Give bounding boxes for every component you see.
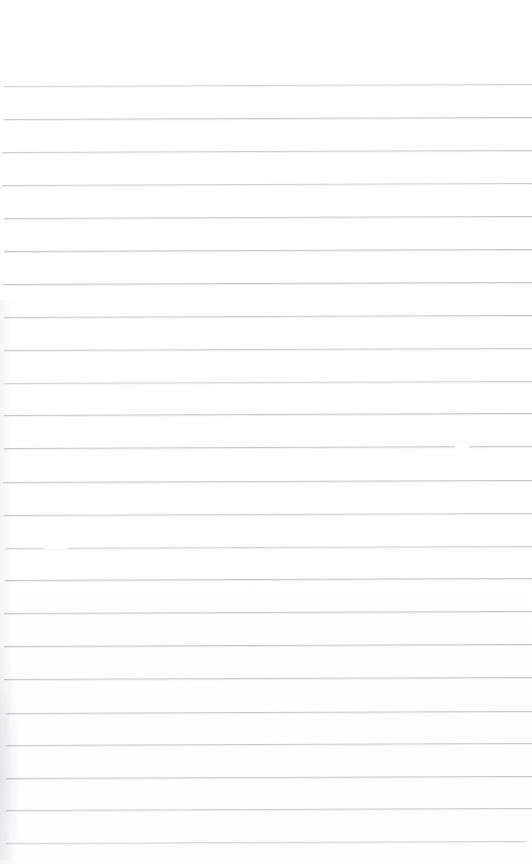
ruled-line: [4, 446, 532, 449]
ruled-line: [3, 480, 532, 483]
ruled-line: [6, 743, 532, 746]
ruled-line: [6, 711, 532, 714]
ruled-lines-layer: [0, 0, 532, 864]
ruled-line: [4, 644, 532, 647]
ruled-line: [4, 513, 532, 516]
ruled-line: [4, 216, 532, 219]
scan-dropout: [0, 546, 6, 549]
ruled-line: [4, 611, 532, 614]
ruled-line: [4, 413, 532, 416]
scanned-page: [0, 0, 532, 864]
ruled-line: [4, 348, 532, 351]
ruled-line: [5, 578, 532, 581]
ruled-line: [6, 808, 532, 811]
ruled-line: [4, 546, 532, 549]
ruled-line: [4, 249, 532, 252]
ruled-line: [4, 381, 532, 384]
ruled-line: [2, 150, 532, 153]
scan-dropout: [455, 446, 469, 449]
ruled-line: [6, 776, 532, 779]
ruled-line: [4, 84, 532, 87]
ruled-line: [4, 117, 532, 120]
scan-dropout: [44, 546, 68, 549]
ruled-line: [4, 315, 532, 318]
ruled-line: [4, 677, 532, 680]
ruled-line: [3, 282, 532, 285]
ruled-line: [2, 183, 532, 186]
ruled-line: [6, 841, 526, 844]
